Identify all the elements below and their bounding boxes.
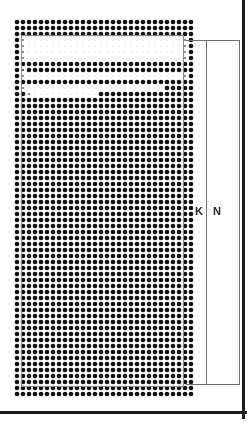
- page-rule-right: [242, 0, 245, 419]
- page-rule-corner: [240, 411, 247, 414]
- dimension-tick-bottom: [186, 384, 240, 385]
- dimension-label-n: N: [213, 206, 221, 217]
- dimension-label-k: K: [195, 206, 203, 217]
- dimension-bracket-k: [206, 40, 207, 385]
- dimension-bracket-n: [239, 40, 240, 385]
- dimension-tick-top: [186, 40, 240, 41]
- figure-page: K N: [0, 0, 249, 434]
- page-rule-bottom: [0, 411, 245, 414]
- inner-reference-rectangle: [21, 35, 184, 387]
